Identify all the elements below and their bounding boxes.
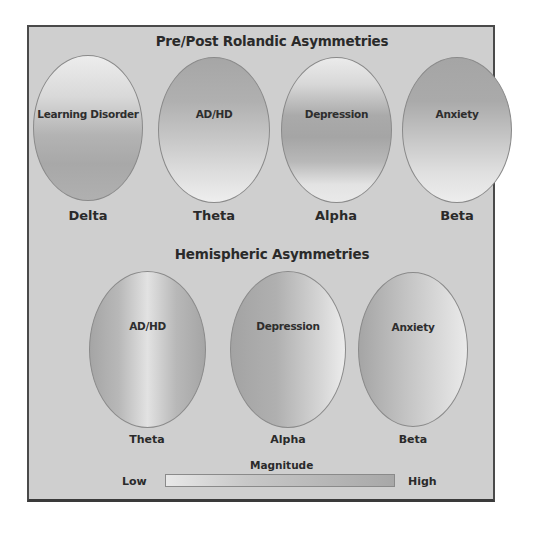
ellipse-learning-disorder: Learning Disorder: [33, 55, 143, 201]
condition-label: AD/HD: [159, 108, 269, 120]
ellipse-adhd-theta: AD/HD: [158, 57, 270, 203]
condition-label: Learning Disorder: [34, 108, 142, 120]
ellipse-depression-alpha: Depression: [281, 57, 392, 203]
legend-high-label: High: [408, 475, 437, 488]
legend-title: Magnitude: [250, 459, 310, 471]
section-title-hemispheric: Hemispheric Asymmetries: [0, 246, 544, 262]
magnitude-gradient-bar: [165, 474, 395, 487]
condition-label: Depression: [231, 320, 345, 332]
legend-low-label: Low: [122, 475, 147, 488]
condition-label: Depression: [282, 108, 391, 120]
band-label-alpha: Alpha: [281, 208, 391, 223]
condition-label: Anxiety: [403, 108, 511, 120]
band-label-beta: Beta: [402, 208, 512, 223]
ellipse-adhd-hemispheric: AD/HD: [89, 271, 206, 428]
band-label-theta-bottom: Theta: [92, 433, 202, 446]
band-label-beta-bottom: Beta: [358, 433, 468, 446]
section-title-pre-post-rolandic: Pre/Post Rolandic Asymmetries: [0, 33, 544, 49]
condition-label: AD/HD: [90, 320, 205, 332]
band-label-delta: Delta: [33, 208, 143, 223]
condition-label: Anxiety: [359, 321, 467, 333]
band-label-alpha-bottom: Alpha: [233, 433, 343, 446]
ellipse-anxiety-beta: Anxiety: [402, 57, 512, 203]
ellipse-anxiety-hemispheric: Anxiety: [358, 272, 468, 427]
band-label-theta: Theta: [159, 208, 269, 223]
ellipse-depression-hemispheric: Depression: [230, 271, 346, 428]
